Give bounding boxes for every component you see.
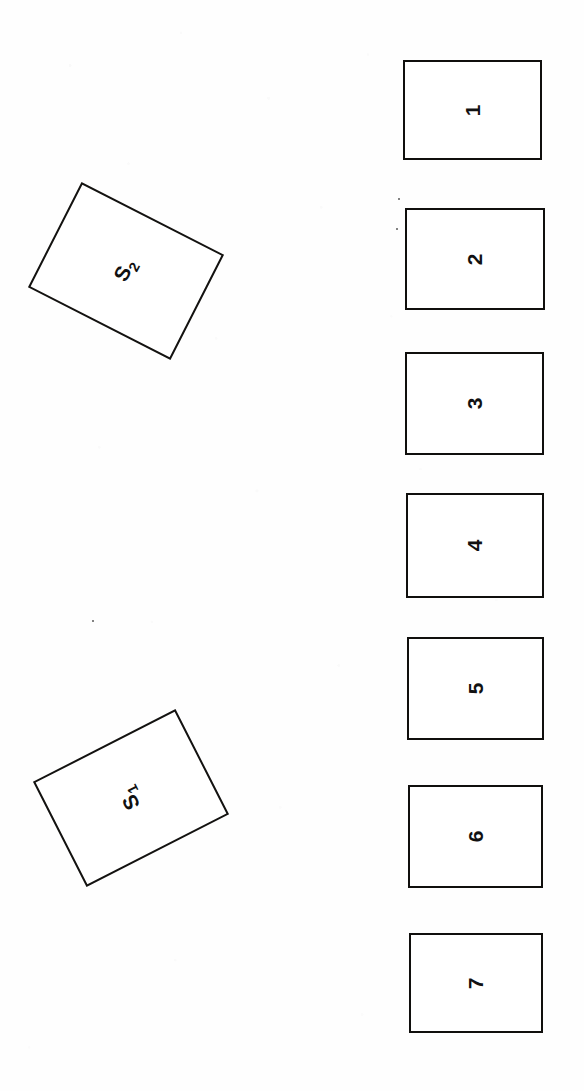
numbered-panel-2: 2 [405, 208, 545, 310]
figure-canvas: 1 2 3 4 5 6 7 S2 S1 [0, 0, 584, 1091]
numbered-panel-label: 5 [465, 683, 486, 695]
numbered-panel-5: 5 [407, 637, 544, 740]
numbered-panel-6: 6 [408, 785, 543, 888]
numbered-panel-7: 7 [409, 933, 543, 1033]
numbered-panel-label: 6 [465, 831, 486, 843]
tilted-panel-s1: S1 [33, 709, 229, 887]
tilted-panel-label-s1: S1 [115, 782, 148, 813]
ink-speck [396, 228, 398, 230]
numbered-panel-1: 1 [403, 60, 542, 160]
ink-speck [398, 198, 400, 200]
tilted-panel-label-s2: S2 [110, 255, 143, 286]
numbered-panel-label: 2 [465, 253, 486, 265]
numbered-panel-4: 4 [406, 493, 544, 598]
numbered-panel-label: 3 [464, 398, 485, 410]
tilted-panel-s2: S2 [28, 182, 224, 360]
numbered-panel-3: 3 [405, 352, 544, 455]
ink-speck [92, 620, 94, 622]
numbered-panel-label: 4 [465, 540, 486, 552]
numbered-panel-label: 7 [466, 977, 487, 989]
tilted-panel-label-base: S [117, 791, 144, 814]
numbered-panel-label: 1 [462, 104, 483, 116]
